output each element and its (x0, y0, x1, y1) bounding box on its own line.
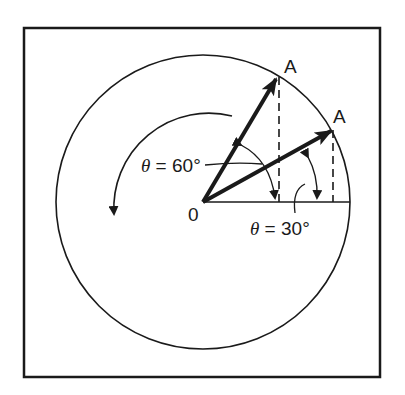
rotating-phasor-diagram: 0 A A θ = 60° θ = 30° (0, 0, 405, 395)
angle-60-label: θ = 60° (141, 155, 201, 176)
leader-60 (205, 163, 262, 165)
leader-30 (294, 184, 305, 213)
point-a-upper-label: A (284, 56, 297, 77)
origin-label: 0 (188, 204, 199, 225)
point-a-lower-label: A (333, 106, 346, 127)
angle-30-label: θ = 30° (250, 218, 310, 239)
angle-arc-30 (308, 157, 317, 198)
